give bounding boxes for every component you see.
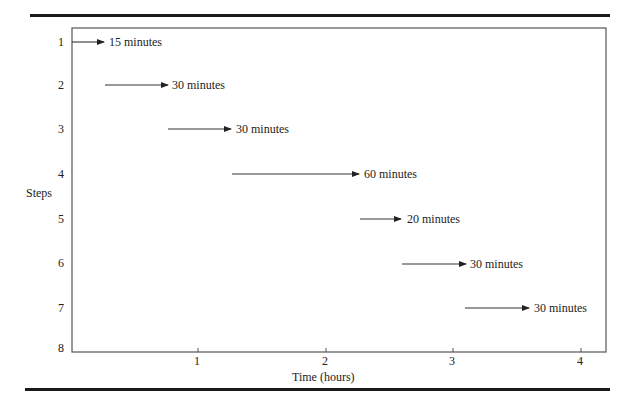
duration-label-step-5: 20 minutes bbox=[407, 212, 460, 226]
x-tick-1: 1 bbox=[194, 354, 200, 368]
y-tick-1: 1 bbox=[50, 35, 64, 49]
x-tick-3: 3 bbox=[449, 354, 455, 368]
duration-label-step-1: 15 minutes bbox=[109, 35, 162, 49]
duration-label-step-7: 30 minutes bbox=[534, 301, 587, 315]
duration-label-step-2: 30 minutes bbox=[172, 78, 225, 92]
plot-frame bbox=[72, 28, 606, 352]
y-tick-6: 6 bbox=[50, 256, 64, 270]
gantt-plot bbox=[0, 0, 633, 406]
y-tick-8: 8 bbox=[50, 341, 64, 355]
x-axis-label: Time (hours) bbox=[292, 370, 355, 384]
duration-label-step-6: 30 minutes bbox=[470, 257, 523, 271]
y-tick-2: 2 bbox=[50, 78, 64, 92]
y-tick-3: 3 bbox=[50, 122, 64, 136]
y-tick-4: 4 bbox=[50, 167, 64, 181]
duration-label-step-4: 60 minutes bbox=[364, 167, 417, 181]
y-tick-7: 7 bbox=[50, 301, 64, 315]
step-arrows bbox=[72, 42, 529, 308]
y-axis-label: Steps bbox=[26, 186, 52, 200]
x-tick-4: 4 bbox=[577, 354, 583, 368]
x-tick-2: 2 bbox=[322, 354, 328, 368]
y-tick-5: 5 bbox=[50, 212, 64, 226]
duration-label-step-3: 30 minutes bbox=[236, 122, 289, 136]
